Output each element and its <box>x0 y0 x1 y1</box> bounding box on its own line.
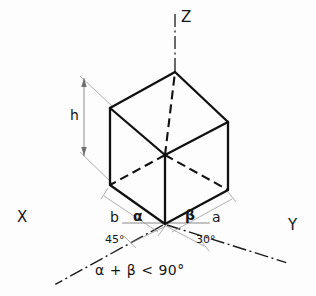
alpha-angle-value: 45° <box>105 233 125 246</box>
depth-dimension-label: b <box>110 209 119 225</box>
hidden-edge-to-bottom-left <box>110 155 165 185</box>
width-dimension-label: a <box>212 209 221 225</box>
alpha-angle-tick <box>124 236 136 248</box>
b-extension-tick-left <box>101 188 108 199</box>
h-lower-extension-line <box>80 152 112 183</box>
alpha-angle-symbol: α <box>133 208 143 224</box>
h-arrow-up <box>81 78 86 87</box>
hidden-edge-vertical-up <box>165 72 175 155</box>
top-edge-left-front <box>110 108 165 155</box>
height-dimension-label: h <box>70 107 79 123</box>
top-edge-right-front <box>165 122 228 155</box>
constraint-caption: α + β < 90° <box>95 262 185 278</box>
y-axis-label: Y <box>288 216 297 234</box>
beta-angle-symbol: β <box>185 207 195 223</box>
top-edge-right-rear <box>175 72 228 122</box>
h-upper-extension-line <box>80 76 112 106</box>
cube-axonometric-svg <box>0 0 316 296</box>
beta-angle-value: 30° <box>196 233 216 246</box>
h-arrow-down <box>81 147 86 156</box>
x-axis-label: X <box>17 208 27 226</box>
technical-drawing-canvas: X Y Z h b a α β 45° 30° α + β < 90° <box>0 0 316 296</box>
cube-visible-edges-group <box>110 72 228 224</box>
axis-lines-group <box>42 14 286 284</box>
z-axis-label: Z <box>181 8 191 26</box>
alpha-angle-leader <box>131 226 166 243</box>
hidden-edge-to-bottom-right <box>165 155 228 190</box>
y-axis-visible-line <box>167 225 286 263</box>
top-edge-left-rear <box>110 72 175 108</box>
